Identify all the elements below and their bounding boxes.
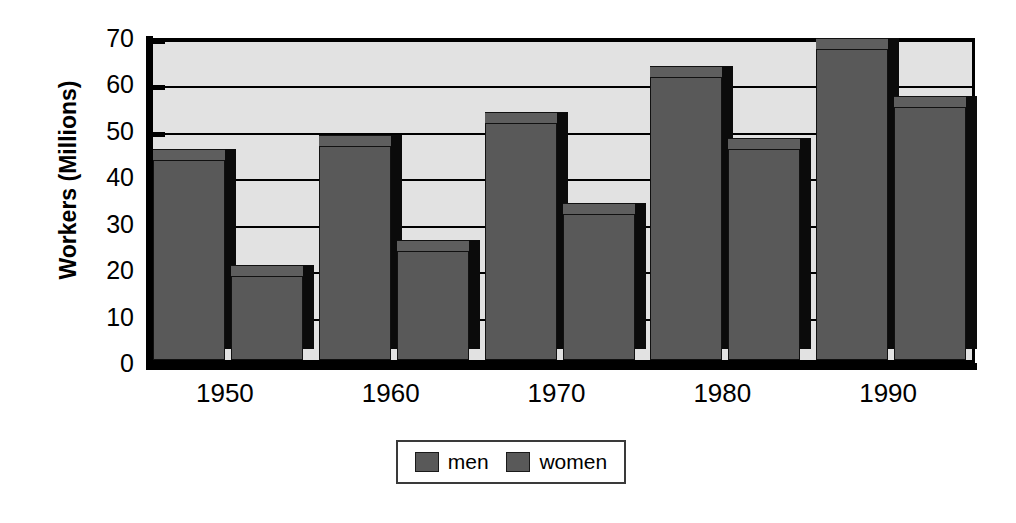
bar-corner-face (391, 135, 402, 146)
bar-top-face (397, 240, 469, 251)
bar-top-face (485, 112, 557, 123)
x-axis-tick-label: 1990 (859, 378, 917, 409)
plot-area (146, 38, 975, 363)
bar-top-face (153, 149, 225, 160)
bar-women-1970 (563, 214, 635, 360)
y-axis-tick-label: 10 (62, 302, 134, 331)
y-axis-tick-label: 50 (62, 116, 134, 145)
legend-item-men: men (415, 450, 489, 474)
bar-corner-face (888, 38, 899, 49)
y-axis-tick-label: 70 (62, 24, 134, 53)
bar-side-face (966, 96, 977, 349)
bar-top-face (563, 203, 635, 214)
bar-side-face (800, 138, 811, 349)
x-axis-tick-label: 1970 (528, 378, 586, 409)
bar-women-1950 (231, 276, 303, 360)
legend-label-women: women (539, 450, 607, 474)
chart-figure: Workers (Millions) 010203040506070 19501… (0, 0, 1016, 523)
bar-men-1990 (816, 49, 888, 360)
y-axis-tick-label: 0 (62, 349, 134, 378)
bar-corner-face (225, 149, 236, 160)
bar-front-face (650, 77, 722, 360)
bar-women-1990 (894, 107, 966, 360)
bar-side-face (469, 240, 480, 349)
legend-label-men: men (448, 450, 489, 474)
y-axis-tick-label: 40 (62, 163, 134, 192)
x-axis-tick-label: 1980 (693, 378, 751, 409)
bar-corner-face (635, 203, 646, 214)
y-axis-line (146, 36, 153, 370)
bar-top-face (650, 66, 722, 77)
bar-front-face (319, 146, 391, 360)
legend-item-women: women (506, 450, 607, 474)
bar-corner-face (469, 240, 480, 251)
x-axis-line (146, 363, 977, 370)
bar-front-face (397, 251, 469, 360)
bar-front-face (563, 214, 635, 360)
bar-men-1950 (153, 160, 225, 360)
x-axis-tick-label: 1960 (362, 378, 420, 409)
legend-swatch-men (415, 452, 439, 472)
bar-corner-face (557, 112, 568, 123)
y-axis-tick-label: 20 (62, 256, 134, 285)
bar-top-face (894, 96, 966, 107)
bar-men-1970 (485, 123, 557, 360)
bar-corner-face (303, 265, 314, 276)
bar-top-face (319, 135, 391, 146)
bar-women-1960 (397, 251, 469, 360)
bar-front-face (894, 107, 966, 360)
bar-side-face (303, 265, 314, 349)
y-axis-tick-labels: 010203040506070 (62, 0, 134, 523)
bar-men-1980 (650, 77, 722, 360)
bar-front-face (153, 160, 225, 360)
legend-swatch-women (506, 452, 530, 472)
y-axis-tick-label: 30 (62, 209, 134, 238)
bar-front-face (728, 149, 800, 360)
bar-side-face (635, 203, 646, 349)
bar-men-1960 (319, 146, 391, 360)
bar-front-face (816, 49, 888, 360)
bar-corner-face (800, 138, 811, 149)
x-axis-tick-label: 1950 (196, 378, 254, 409)
bar-front-face (485, 123, 557, 360)
legend: menwomen (396, 440, 626, 484)
bar-front-face (231, 276, 303, 360)
bar-top-face (816, 38, 888, 49)
bar-corner-face (722, 66, 733, 77)
bar-corner-face (966, 96, 977, 107)
bar-women-1980 (728, 149, 800, 360)
y-axis-tick-label: 60 (62, 70, 134, 99)
bar-top-face (231, 265, 303, 276)
bar-top-face (728, 138, 800, 149)
